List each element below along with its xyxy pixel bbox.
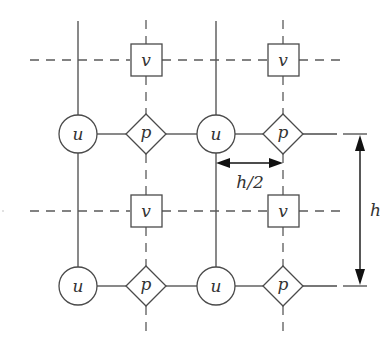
p-node-label: p xyxy=(141,274,152,294)
spacing-label: h xyxy=(370,200,381,220)
half-spacing-label: h/2 xyxy=(236,172,264,192)
staggered-grid-diagram: v v v v u u u u p p p p h/2 xyxy=(0,0,391,347)
stray-dot xyxy=(2,210,4,212)
arrowhead-down-icon xyxy=(355,269,365,285)
p-node-label: p xyxy=(278,122,289,142)
half-spacing-dimension: h/2 xyxy=(216,158,283,192)
p-node-label: p xyxy=(278,274,289,294)
spacing-dimension: h xyxy=(355,135,381,285)
u-node-label: u xyxy=(211,124,222,144)
v-node-label: v xyxy=(278,201,288,221)
u-node-label: u xyxy=(73,124,84,144)
u-node-label: u xyxy=(211,276,222,296)
arrowhead-left-icon xyxy=(216,158,230,168)
v-node-label: v xyxy=(278,50,288,70)
v-node-label: v xyxy=(141,201,151,221)
v-node-label: v xyxy=(141,50,151,70)
arrowhead-right-icon xyxy=(269,158,283,168)
p-node-label: p xyxy=(141,122,152,142)
arrowhead-up-icon xyxy=(355,135,365,151)
u-node-label: u xyxy=(73,276,84,296)
